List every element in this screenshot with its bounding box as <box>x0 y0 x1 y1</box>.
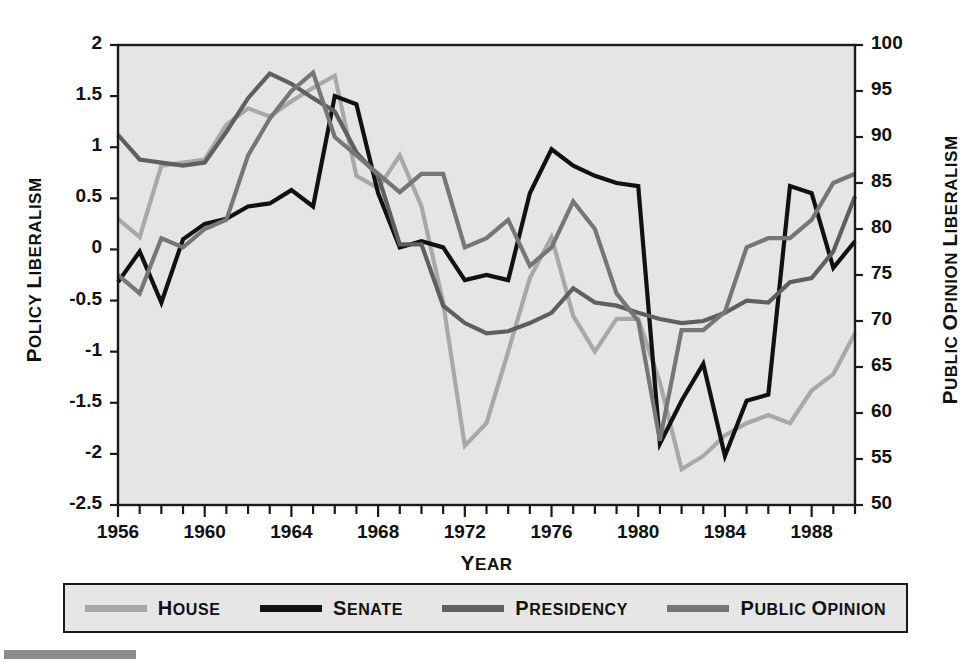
y-axis-right-tick-label: 95 <box>871 78 941 100</box>
legend-label: HOUSE <box>158 597 221 620</box>
x-axis-tick-label: 1968 <box>338 521 418 543</box>
x-axis-title-text: YEAR <box>461 555 513 574</box>
y-axis-left-tick-label: 1.5 <box>32 83 102 105</box>
legend-entry-senate[interactable]: SENATE <box>260 597 403 620</box>
y-axis-right-tick-label: 90 <box>871 124 941 146</box>
y-axis-left-tick-label: 0 <box>32 236 102 258</box>
y-axis-left-tick-label: 1 <box>32 134 102 156</box>
y-axis-left-title: POLICY LIBERALISM <box>22 130 46 410</box>
y-axis-right-tick-label: 50 <box>871 492 941 514</box>
y-axis-right-title-text: PUBLIC OPINION LIBERALISM <box>942 135 961 404</box>
y-axis-left-tick-label: -2 <box>32 441 102 463</box>
legend-entry-presidency[interactable]: PRESIDENCY <box>442 597 628 620</box>
y-axis-right-tick-label: 70 <box>871 308 941 330</box>
x-axis-tick-label: 1972 <box>425 521 505 543</box>
legend-label: PUBLIC OPINION <box>740 597 886 620</box>
x-axis-tick-label: 1956 <box>78 521 158 543</box>
y-axis-right-tick-label: 75 <box>871 262 941 284</box>
y-axis-left-tick-label: 0.5 <box>32 185 102 207</box>
chart-figure: POLICY LIBERALISM PUBLIC OPINION LIBERAL… <box>0 0 972 670</box>
legend-swatch-icon <box>85 605 147 612</box>
scan-edge-artifact <box>4 650 136 659</box>
legend-swatch-icon <box>442 605 504 612</box>
x-axis-tick-label: 1976 <box>512 521 592 543</box>
legend-swatch-icon <box>667 605 729 612</box>
y-axis-right-title: PUBLIC OPINION LIBERALISM <box>938 120 962 420</box>
x-axis-tick-label: 1988 <box>772 521 852 543</box>
x-axis-tick-label: 1984 <box>685 521 765 543</box>
y-axis-right-tick-label: 65 <box>871 354 941 376</box>
y-axis-right-tick-label: 85 <box>871 170 941 192</box>
legend-swatch-icon <box>260 605 322 612</box>
y-axis-right-tick-label: 100 <box>871 32 941 54</box>
x-axis-title: YEAR <box>118 551 855 575</box>
legend-entry-public-opinion[interactable]: PUBLIC OPINION <box>667 597 886 620</box>
chart-legend: HOUSESENATEPRESIDENCYPUBLIC OPINION <box>63 583 908 633</box>
y-axis-left-tick-label: -2.5 <box>32 492 102 514</box>
x-axis-tick-label: 1960 <box>165 521 245 543</box>
y-axis-left-tick-label: -1.5 <box>32 390 102 412</box>
x-axis-tick-label: 1964 <box>251 521 331 543</box>
y-axis-left-tick-label: 2 <box>32 32 102 54</box>
x-axis-tick-label: 1980 <box>598 521 678 543</box>
legend-entry-house[interactable]: HOUSE <box>85 597 221 620</box>
legend-label: PRESIDENCY <box>515 597 628 620</box>
y-axis-left-tick-label: -1 <box>32 339 102 361</box>
legend-label: SENATE <box>333 597 403 620</box>
y-axis-right-tick-label: 60 <box>871 400 941 422</box>
y-axis-right-tick-label: 55 <box>871 446 941 468</box>
y-axis-left-tick-label: -0.5 <box>32 288 102 310</box>
y-axis-right-tick-label: 80 <box>871 216 941 238</box>
